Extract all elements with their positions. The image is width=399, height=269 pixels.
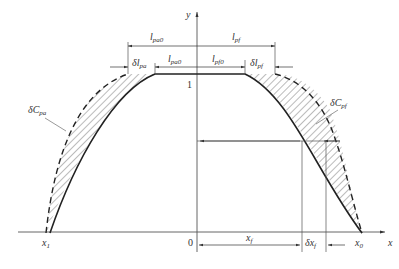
label-xf: xf	[245, 232, 253, 245]
label-dCpf: δCpf	[330, 97, 348, 110]
label-dxf: δxf	[305, 237, 317, 250]
label-lpa0-outer: lpa0	[150, 31, 164, 44]
tolerance-curve-diagram: y x 0 1 lpa0 lpf lpa0 lpf0 δlpa δlpf δCp…	[0, 0, 399, 269]
hatched-region-right	[245, 74, 362, 235]
x-axis-label: x	[387, 237, 393, 248]
origin-label: 0	[188, 237, 193, 248]
label-dCpa: δCpa	[28, 104, 47, 117]
y-axis-label: y	[185, 9, 191, 20]
label-lpa0-inner: lpa0	[168, 53, 182, 66]
label-dlpa: δlpa	[132, 57, 147, 70]
label-lpf0-inner: lpf0	[212, 53, 224, 66]
y-tick-1: 1	[187, 79, 192, 90]
label-lpf-outer: lpf	[232, 31, 241, 44]
label-x0: x0	[354, 237, 363, 250]
label-x1: x1	[41, 237, 50, 250]
label-dlpf: δlpf	[250, 57, 264, 70]
